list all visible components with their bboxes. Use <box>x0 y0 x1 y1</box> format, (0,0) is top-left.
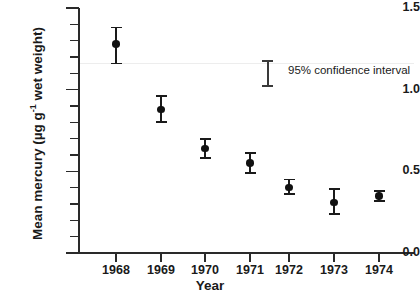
error-bar-lower-cap <box>156 121 167 123</box>
y-axis-minor-tick <box>70 56 79 58</box>
y-axis-minor-tick <box>70 105 79 107</box>
data-point-marker <box>285 184 293 192</box>
error-bar-upper-cap <box>284 179 295 181</box>
chart-canvas: Mean mercury (µg g-1 wet weight) 0.00.51… <box>0 0 420 299</box>
data-point-marker <box>330 199 338 207</box>
x-axis-tick <box>204 253 206 262</box>
y-axis-tick-label: 0.5 <box>358 163 420 177</box>
y-axis-minor-tick <box>70 122 79 124</box>
y-axis-tick-label: 0.0 <box>358 245 420 259</box>
data-point-marker <box>246 159 254 167</box>
x-axis-tick <box>115 253 117 262</box>
y-axis-minor-tick <box>70 187 79 189</box>
y-axis-major-tick <box>66 89 79 91</box>
error-bar-lower-cap <box>284 193 295 195</box>
y-axis-tick-label: 1.5 <box>358 0 420 14</box>
x-axis-tick <box>288 253 290 262</box>
y-axis-label-exponent: -1 <box>28 104 38 112</box>
x-axis-tick <box>333 253 335 262</box>
y-axis-minor-tick <box>70 24 79 26</box>
y-axis-major-tick <box>66 171 79 173</box>
error-bar-lower-cap <box>111 63 122 65</box>
y-axis-label: Mean mercury (µg g-1 wet weight) <box>30 9 45 259</box>
y-axis-line <box>78 8 80 254</box>
y-axis-major-tick <box>66 7 79 9</box>
error-bar-upper-cap <box>245 152 256 154</box>
x-axis-tick-label: 1974 <box>351 263 407 277</box>
legend-errorbar-icon <box>267 60 269 86</box>
x-axis-label: Year <box>0 278 420 293</box>
y-axis-minor-tick <box>70 40 79 42</box>
y-axis-label-prefix: Mean mercury (µg g <box>30 112 45 240</box>
x-axis-tick <box>249 253 251 262</box>
y-axis-minor-tick <box>70 154 79 156</box>
data-point-marker <box>201 145 209 153</box>
error-bar-upper-cap <box>156 95 167 97</box>
y-axis-tick-label: 1.0 <box>358 82 420 96</box>
y-axis-major-tick <box>66 252 79 254</box>
legend-errorbar-top-cap-icon <box>262 60 273 62</box>
x-axis-tick <box>160 253 162 262</box>
data-point-marker <box>157 106 165 114</box>
error-bar-upper-cap <box>200 138 211 140</box>
y-axis-minor-tick <box>70 203 79 205</box>
error-bar-upper-cap <box>329 188 340 190</box>
y-axis-label-suffix: wet weight) <box>30 27 45 104</box>
x-axis-tick <box>378 253 380 262</box>
y-axis-minor-tick <box>70 220 79 222</box>
y-axis-minor-tick <box>70 236 79 238</box>
error-bar-lower-cap <box>374 200 385 202</box>
legend-errorbar-bottom-cap-icon <box>262 85 273 87</box>
error-bar-upper-cap <box>111 27 122 29</box>
data-point-marker <box>375 192 383 200</box>
error-bar-lower-cap <box>329 213 340 215</box>
data-point-marker <box>112 40 120 48</box>
y-axis-minor-tick <box>70 138 79 140</box>
error-bar-lower-cap <box>245 172 256 174</box>
legend-label: 95% confidence interval <box>288 64 410 76</box>
y-axis-minor-tick <box>70 73 79 75</box>
error-bar-lower-cap <box>200 157 211 159</box>
